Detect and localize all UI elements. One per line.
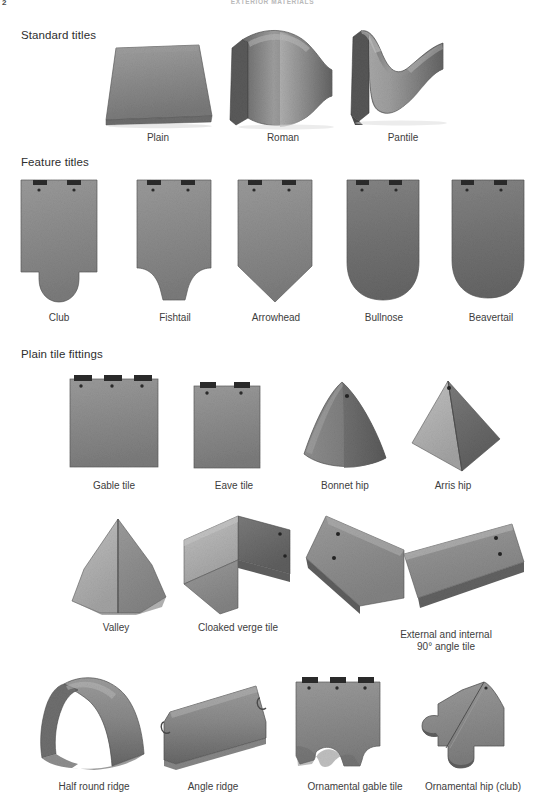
caption-club: Club — [14, 312, 104, 324]
figure-fishtail — [133, 176, 215, 304]
figure-angle-ridge — [152, 682, 274, 770]
figure-roman — [228, 26, 338, 130]
caption-beavertail: Beavertail — [443, 312, 539, 324]
caption-valley: Valley — [68, 622, 164, 634]
caption-arrowhead: Arrowhead — [230, 312, 322, 324]
caption-cloaked-verge-tile: Cloaked verge tile — [176, 622, 300, 634]
caption-plain: Plain — [104, 132, 212, 144]
caption-gable-tile: Gable tile — [66, 480, 162, 492]
figure-external-angle-tile — [300, 510, 408, 618]
caption-pantile: Pantile — [349, 132, 457, 144]
caption-arris-hip: Arris hip — [403, 480, 503, 492]
figure-ornamental-hip-club — [410, 678, 520, 770]
figure-gable-tile — [66, 371, 162, 471]
figure-eave-tile — [190, 378, 264, 472]
figure-half-round-ridge — [34, 672, 156, 770]
figure-club — [17, 176, 101, 304]
caption-ornamental-hip-club: Ornamental hip (club) — [404, 781, 542, 793]
figure-internal-angle-tile — [400, 520, 528, 618]
caption-external-internal-angle-tile: External and internal 90° angle tile — [366, 629, 526, 652]
caption-eave-tile: Eave tile — [188, 480, 280, 492]
figure-plain — [100, 42, 215, 128]
figure-arrowhead — [234, 176, 316, 304]
figure-page: 2 Exterior materials — [0, 0, 545, 810]
figure-valley — [66, 515, 174, 617]
caption-half-round-ridge: Half round ridge — [33, 781, 155, 793]
running-head: Exterior materials — [0, 0, 545, 4]
section-heading-feature-tiles: Feature titles — [21, 156, 89, 168]
figure-cloaked-verge-tile — [180, 512, 296, 618]
caption-bullnose: Bullnose — [338, 312, 430, 324]
figure-bonnet-hip — [300, 378, 392, 472]
caption-bonnet-hip: Bonnet hip — [295, 480, 395, 492]
figure-beavertail — [448, 176, 528, 304]
section-heading-plain-tile-fittings: Plain tile fittings — [21, 348, 103, 360]
caption-fishtail: Fishtail — [130, 312, 220, 324]
figure-ornamental-gable-tile — [292, 672, 384, 770]
figure-bullnose — [343, 176, 423, 304]
caption-roman: Roman — [229, 132, 337, 144]
section-heading-standard-tiles: Standard titles — [21, 29, 96, 41]
figure-arris-hip — [408, 377, 504, 475]
caption-angle-ridge: Angle ridge — [157, 781, 269, 793]
figure-pantile — [345, 25, 453, 131]
